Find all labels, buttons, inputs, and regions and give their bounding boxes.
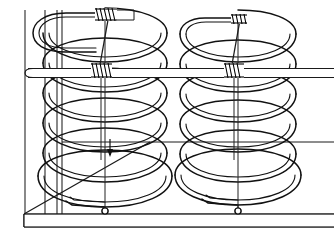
right-spring-top-clamp bbox=[231, 14, 247, 24]
coil-spring-assembly-drawing bbox=[0, 0, 334, 235]
left-spring-mid-clamp-overlay bbox=[91, 63, 112, 78]
figure-canvas bbox=[0, 0, 334, 235]
base-platform-front-face bbox=[24, 214, 334, 227]
left-spring-top-clamp bbox=[95, 8, 117, 21]
horizontal-cross-rod bbox=[25, 69, 334, 78]
right-spring-mid-clamp-overlay bbox=[224, 63, 244, 78]
right-spring-end-marker-top bbox=[235, 208, 241, 214]
left-spring-end-marker-top bbox=[102, 208, 108, 214]
